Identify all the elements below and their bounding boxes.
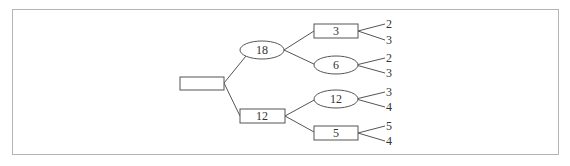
edge-6-2 — [356, 58, 385, 65]
leaf-label: 2 — [386, 51, 392, 65]
leaf-label: 2 — [386, 17, 392, 31]
node-12-label: 12 — [256, 109, 268, 123]
edge-3-3 — [358, 31, 385, 40]
leaf-label: 4 — [386, 134, 392, 148]
node-6-label: 6 — [333, 58, 339, 72]
root-node-empty — [180, 77, 224, 90]
edge-root-12 — [224, 83, 240, 116]
node-12b-label: 12 — [330, 92, 342, 106]
edge-6-3 — [356, 65, 385, 73]
edge-root-18 — [224, 56, 246, 83]
edge-12-3 — [356, 92, 385, 99]
edge-12-5 — [285, 116, 314, 132]
leaf-label: 3 — [386, 85, 392, 99]
leaf-label: 3 — [386, 66, 392, 80]
edge-12-4 — [356, 99, 385, 107]
edge-5-4 — [358, 133, 385, 141]
node-3-label: 3 — [333, 24, 339, 38]
leaf-label: 3 — [386, 33, 392, 47]
edge-18-6 — [284, 50, 316, 65]
leaf-label: 5 — [386, 119, 392, 133]
edge-5-5 — [358, 126, 385, 133]
node-5-label: 5 — [333, 126, 339, 140]
leaf-label: 4 — [386, 100, 392, 114]
node-18-label: 18 — [256, 43, 268, 57]
edge-18-3 — [284, 31, 314, 50]
edge-12-12 — [285, 99, 316, 116]
edge-3-2 — [358, 24, 385, 31]
factor-tree-diagram: 18 12 3 6 12 5 2 3 2 3 3 4 5 4 — [0, 0, 570, 166]
